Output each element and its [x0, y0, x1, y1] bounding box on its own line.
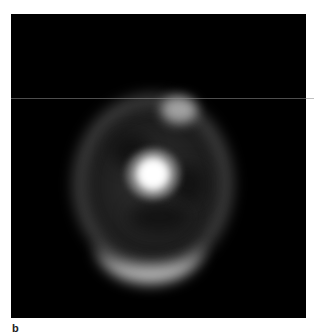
- panel-label: b: [12, 322, 19, 334]
- micrograph-panel: [11, 14, 306, 318]
- figure: b: [0, 0, 318, 335]
- scan-line-artifact: [11, 98, 314, 99]
- lower-bright-arc: [95, 220, 205, 284]
- central-bright-core: [137, 158, 169, 190]
- upper-right-bright-knot: [161, 96, 197, 124]
